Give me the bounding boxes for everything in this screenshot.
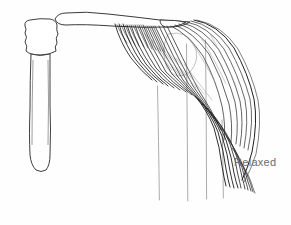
- figure-root: Relaxed: [0, 0, 291, 225]
- anatomy-illustration: [0, 0, 291, 225]
- relaxed-label: Relaxed: [234, 156, 276, 168]
- humerus-head: [25, 19, 58, 55]
